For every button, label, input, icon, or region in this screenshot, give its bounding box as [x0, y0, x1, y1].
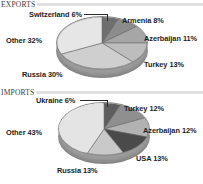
exports-label-switzerland: Switzerland 6% [29, 10, 82, 19]
imports-section-header: IMPORTS [0, 88, 203, 97]
imports-header-rule [36, 91, 203, 94]
imports-label-russia: Russia 13% [57, 166, 98, 175]
exports-label-russia: Russia 30% [22, 70, 63, 79]
exports-leader-switzerland [84, 14, 108, 15]
imports-label-other: Other 43% [6, 128, 42, 137]
exports-label-turkey: Turkey 13% [144, 60, 184, 69]
exports-leader-switzerland-drop [107, 14, 108, 21]
imports-label-turkey: Turkey 12% [124, 104, 164, 113]
exports-label-azerbaijan: Azerbaijan 11% [144, 34, 197, 43]
exports-header-rule [37, 3, 203, 6]
exports-pie [56, 16, 148, 78]
imports-leader-ukraine-drop [107, 100, 108, 107]
imports-label-azerbaijan: Azerbaijan 12% [143, 126, 197, 135]
imports-leader-ukraine [80, 100, 108, 101]
imports-title: IMPORTS [0, 88, 36, 97]
imports-label-usa: USA 13% [136, 154, 168, 163]
exports-label-other: Other 32% [6, 36, 42, 45]
imports-label-ukraine: Ukraine 6% [36, 96, 75, 105]
exports-chart-panel: EXPORTS [0, 0, 203, 88]
exports-section-header: EXPORTS [0, 0, 203, 9]
exports-label-armenia: Armenia 8% [122, 16, 164, 25]
exports-title: EXPORTS [0, 0, 37, 9]
imports-chart-panel: IMPORTS [0, 88, 203, 184]
